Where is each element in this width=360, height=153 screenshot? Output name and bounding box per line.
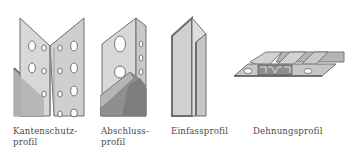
caption-abschlussprofil: Abschluss- profil [101,126,149,148]
edging-profile-icon [170,16,210,118]
caption-einfassprofil: Einfassprofil [171,126,228,137]
dehnungsprofil-illustration [232,48,348,84]
caption-kantenschutzprofil: Kantenschutz- profil [13,126,77,148]
stop-bead-icon [100,16,152,118]
caption-line-1: Einfassprofil [171,126,228,137]
caption-line-1: Kantenschutz- [13,126,77,137]
kantenschutzprofil-illustration [12,16,88,118]
corner-bead-icon [12,16,88,118]
caption-line-1: Abschluss- [101,126,149,137]
caption-line-2: profil [101,137,149,148]
expansion-joint-icon [232,48,348,84]
caption-line-2: profil [13,137,77,148]
abschlussprofil-illustration [100,16,152,118]
caption-dehnungsprofil: Dehnungsprofil [253,126,323,137]
einfassprofil-illustration [170,16,210,118]
caption-line-1: Dehnungsprofil [253,126,323,137]
